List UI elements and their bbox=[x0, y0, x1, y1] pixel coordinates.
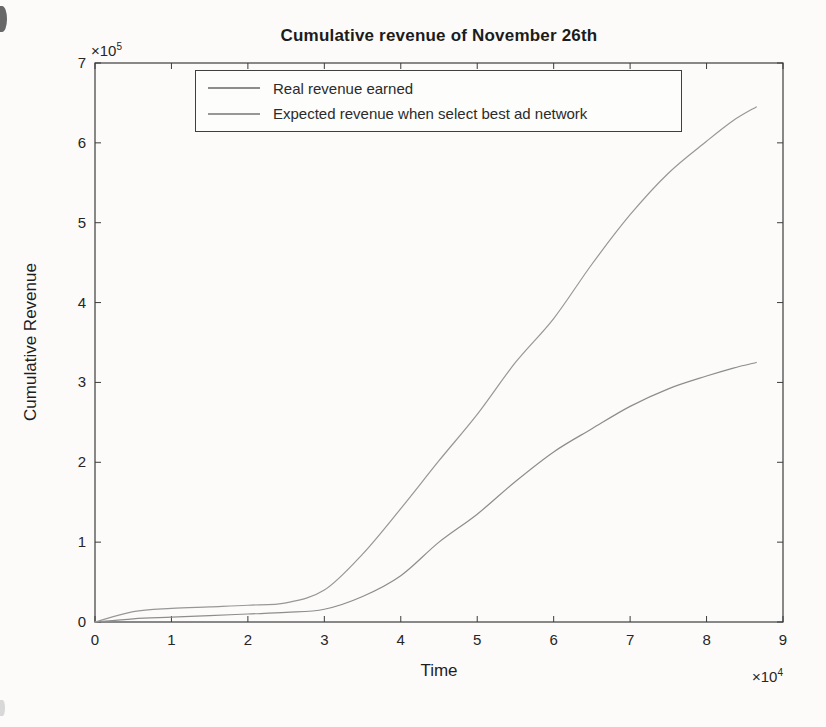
figure-page: Cumulative revenue of November 26th ×105… bbox=[0, 0, 826, 727]
x-tick-label: 4 bbox=[397, 631, 405, 648]
x-tick-label: 3 bbox=[320, 631, 328, 648]
legend-label-real: Real revenue earned bbox=[273, 80, 413, 97]
x-exp-prefix: ×10 bbox=[752, 668, 777, 685]
x-tick-label: 1 bbox=[167, 631, 175, 648]
y-tick-label: 5 bbox=[78, 214, 86, 231]
y-tick-label: 1 bbox=[78, 533, 86, 550]
x-tick-label: 0 bbox=[91, 631, 99, 648]
legend-item-expected-revenue: Expected revenue when select best ad net… bbox=[196, 105, 681, 122]
legend-item-real-revenue: Real revenue earned bbox=[196, 80, 681, 97]
x-tick-label: 7 bbox=[626, 631, 634, 648]
y-tick-label: 7 bbox=[78, 54, 86, 71]
legend-label-expected: Expected revenue when select best ad net… bbox=[273, 105, 587, 122]
y-tick-label: 0 bbox=[78, 613, 86, 630]
y-tick-label: 6 bbox=[78, 134, 86, 151]
legend-line-sample-real bbox=[208, 87, 260, 89]
x-tick-label: 6 bbox=[549, 631, 557, 648]
y-tick-label: 2 bbox=[78, 453, 86, 470]
y-tick-label: 4 bbox=[78, 294, 86, 311]
x-tick-label: 8 bbox=[702, 631, 710, 648]
real-revenue-line bbox=[95, 362, 756, 622]
x-tick-label: 2 bbox=[244, 631, 252, 648]
legend-line-sample-expected bbox=[208, 113, 260, 115]
expected-revenue-line bbox=[95, 107, 756, 622]
x-exp-power: 4 bbox=[777, 667, 783, 678]
y-axis-label: Cumulative Revenue bbox=[21, 263, 41, 421]
y-tick-label: 3 bbox=[78, 373, 86, 390]
x-tick-label: 5 bbox=[473, 631, 481, 648]
x-tick-label: 9 bbox=[779, 631, 787, 648]
x-axis-exponent: ×104 bbox=[95, 667, 783, 685]
axes-frame bbox=[95, 63, 783, 622]
legend: Real revenue earned Expected revenue whe… bbox=[195, 70, 682, 132]
